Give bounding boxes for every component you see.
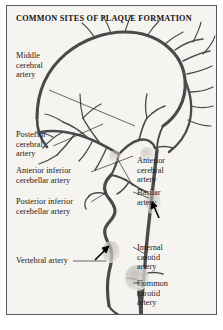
leader-anterior-cerebral <box>117 158 133 186</box>
label-posterior-cerebral-artery: Posterior cerebral artery <box>16 130 46 159</box>
label-middle-cerebral-artery: Middle cerebral artery <box>16 51 43 80</box>
label-anterior-cerebral-artery: Anterior cerebral artery <box>137 156 165 185</box>
cerebral-arch <box>37 32 185 126</box>
leader-lines <box>49 90 149 283</box>
label-common-carotid-artery: Common carotid artery <box>137 279 168 308</box>
label-vertebral-artery: Vertebral artery <box>16 256 68 266</box>
label-anterior-inferior-cerebellar-artery: Anterior inferior cerebellar artery <box>16 166 71 185</box>
label-posterior-inferior-cerebellar-artery: Posterior inferior cerebellar artery <box>16 197 73 216</box>
label-basilar-artery: Basilar artery <box>137 188 161 207</box>
figure-panel: COMMON SITES OF PLAQUE FORMATION <box>6 5 217 315</box>
label-internal-carotid-artery: Internal carotid artery <box>137 243 163 272</box>
vessel-tree <box>35 15 215 315</box>
